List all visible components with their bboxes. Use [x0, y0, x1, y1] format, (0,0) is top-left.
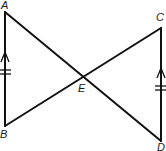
point-label-d: D: [157, 141, 165, 151]
point-label-a: A: [0, 0, 8, 11]
point-label-e: E: [78, 82, 86, 94]
point-label-c: C: [156, 11, 164, 23]
point-label-b: B: [0, 128, 7, 140]
segment-bc: [5, 28, 161, 126]
geometry-diagram: A B C D E: [0, 0, 166, 151]
